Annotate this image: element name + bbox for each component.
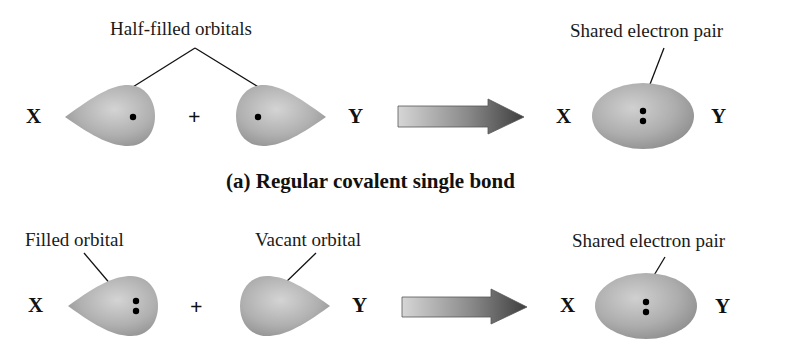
vacant-orbital-label: Vacant orbital (255, 229, 361, 251)
electron-dot (643, 299, 649, 305)
atom-y-label: Y (352, 293, 367, 318)
reaction-arrow (402, 289, 527, 324)
vacant-orbital (240, 276, 330, 336)
plus-sign: + (188, 104, 201, 130)
electron-dot (643, 309, 649, 315)
electron-dot (640, 108, 646, 114)
product-atom-x-label: X (556, 104, 571, 129)
panel-a-caption: (a) Regular covalent single bond (226, 169, 515, 194)
leader-line (283, 253, 316, 285)
electron-dot (255, 114, 261, 120)
electron-dot (640, 118, 646, 124)
reaction-arrow (398, 99, 524, 134)
half-filled-orbital-right (236, 85, 326, 146)
plus-sign: + (190, 294, 203, 320)
atom-y-label: Y (348, 104, 363, 129)
electron-dot (133, 298, 139, 304)
product-atom-x-label: X (560, 293, 575, 318)
shared-electron-pair-label: Shared electron pair (570, 20, 723, 42)
bonding-orbital (595, 273, 697, 339)
shared-electron-pair-label: Shared electron pair (572, 230, 725, 252)
atom-x-label: X (28, 293, 43, 318)
electron-dot (130, 114, 136, 120)
product-atom-y-label: Y (711, 104, 726, 129)
bonding-orbital (592, 83, 694, 149)
half-filled-orbitals-label: Half-filled orbitals (110, 18, 252, 40)
electron-dot (133, 308, 139, 314)
half-filled-orbital-left (65, 85, 155, 146)
atom-x-label: X (26, 104, 41, 129)
leader-line (84, 253, 112, 286)
product-atom-y-label: Y (715, 294, 730, 319)
filled-orbital-label: Filled orbital (25, 229, 124, 251)
filled-orbital (68, 276, 158, 336)
